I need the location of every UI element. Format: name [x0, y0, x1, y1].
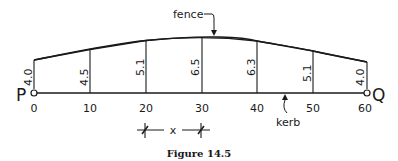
chainage-label-0: 0 [31, 102, 38, 115]
chainage-label-50: 50 [306, 102, 320, 115]
point-p-marker [31, 90, 37, 96]
kerb-label: kerb [276, 116, 300, 129]
figure-caption: Figure 14.5 [167, 148, 232, 159]
point-p-label: P [16, 85, 26, 105]
chainage-label-40: 40 [250, 102, 264, 115]
offset-label-40: 6.3 [245, 59, 258, 77]
offset-label-20: 5.1 [134, 59, 147, 77]
offset-label-60: 4.0 [354, 69, 367, 87]
figure-14-5: P Q 4.0 4.5 5.1 6.5 6.3 5.1 4.0 0 10 20 … [0, 0, 398, 161]
offset-label-30: 6.5 [189, 59, 202, 77]
offset-label-0: 4.0 [22, 69, 35, 87]
chainage-label-20: 20 [139, 102, 153, 115]
fence-label: fence [173, 8, 204, 21]
chainage-label-10: 10 [83, 102, 97, 115]
offset-label-10: 4.5 [78, 69, 91, 87]
point-q-label: Q [372, 85, 385, 105]
offset-label-50: 5.1 [301, 65, 314, 83]
interval-label: x [170, 124, 177, 137]
point-q-marker [364, 90, 370, 96]
chainage-label-60: 60 [358, 102, 372, 115]
chainage-label-30: 30 [195, 102, 209, 115]
